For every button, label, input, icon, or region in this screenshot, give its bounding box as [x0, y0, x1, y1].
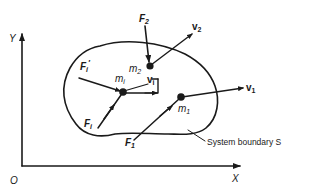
internal-force-fi-prime-arrow [79, 78, 120, 91]
force-fi-arrowhead [104, 105, 114, 119]
force-f1-arrowhead [160, 106, 172, 116]
force-f2-label: F2 [139, 13, 149, 25]
velocity-vi-label: vi [147, 74, 155, 86]
particle-m2: F2 v2 m2 [129, 13, 202, 75]
velocity-v1-label: v1 [246, 82, 256, 94]
boundary-label: System boundary S [207, 137, 282, 147]
y-axis-label: Y [9, 33, 17, 44]
force-f1-label: F1 [125, 137, 135, 149]
mass-m1-dot [177, 93, 185, 101]
coordinate-axes: Y X O [9, 33, 240, 186]
mass-m1-label: m1 [178, 103, 190, 115]
boundary-leader-line [188, 130, 205, 141]
internal-force-fi-prime-label: Fi′ [80, 58, 91, 73]
velocity-v1-arrow [182, 88, 243, 97]
velocity-vi-arrow [124, 84, 148, 91]
mass-mi-dot [119, 88, 127, 96]
x-axis-label: X [231, 173, 239, 184]
mass-m2-label: m2 [129, 63, 141, 75]
velocity-v2-arrow [151, 34, 192, 65]
force-fi-label: Fi [84, 118, 93, 130]
particle-mi: Fi′ mi vi Fi [79, 58, 158, 130]
mass-m2-dot [146, 62, 153, 69]
mass-mi-label: mi [115, 73, 125, 85]
velocity-v2-label: v2 [192, 21, 202, 33]
origin-label: O [10, 175, 18, 186]
system-of-particles-diagram: Y X O System boundary S F2 v2 m2 Fi′ [0, 0, 313, 190]
